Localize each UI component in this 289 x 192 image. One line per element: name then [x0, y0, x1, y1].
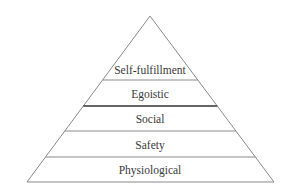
level-label-safety: Safety: [135, 139, 165, 152]
level-label-egoistic: Egoistic: [131, 88, 169, 101]
level-label-self-fulfillment: Self-fulfillment: [114, 64, 186, 76]
level-label-social: Social: [136, 113, 165, 125]
pyramid-diagram: Self-fulfillment Egoistic Social Safety …: [0, 0, 289, 192]
level-label-physiological: Physiological: [119, 164, 182, 177]
